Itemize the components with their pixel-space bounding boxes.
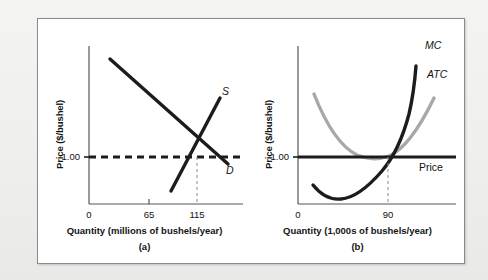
panel-a-x-tick-label-65: 65: [137, 209, 161, 220]
panel-b-x-tick-label-90: 90: [375, 209, 401, 220]
panel-b-caption: (b): [251, 241, 464, 252]
panel-a-caption: (a): [38, 241, 251, 252]
panel-b-price-label: Price: [419, 161, 443, 173]
panel-a: Price ($/bushel) 1.00 0 65 115 S D Quant…: [38, 19, 251, 263]
panel-b-atc-curve: [314, 94, 434, 159]
panel-a-x-axis-title: Quantity (millions of bushels/year): [38, 225, 251, 236]
panel-b-atc-label: ATC: [427, 68, 447, 80]
panel-b-y-tick-label-1.00: 1.00: [253, 151, 289, 162]
panel-a-x-tick-label-115: 115: [183, 209, 211, 220]
panel-a-x-tick-label-0: 0: [79, 209, 99, 220]
panel-a-demand-label: D: [226, 164, 234, 176]
panel-b-x-axis-title: Quantity (1,000s of bushels/year): [251, 225, 464, 236]
panel-a-supply-label: S: [222, 85, 229, 97]
panel-a-demand-curve: [110, 59, 228, 164]
figure-page: Price ($/bushel) 1.00 0 65 115 S D Quant…: [0, 0, 488, 280]
figure-frame: Price ($/bushel) 1.00 0 65 115 S D Quant…: [37, 18, 465, 264]
panel-a-supply-curve: [171, 98, 220, 191]
panel-a-y-tick-label-1.00: 1.00: [44, 151, 80, 162]
panel-b-x-tick-label-0: 0: [288, 209, 308, 220]
panel-b-mc-curve: [313, 66, 416, 199]
panel-b: Price ($/bushel) 1.00 0 90 MC ATC Price …: [251, 19, 464, 263]
panel-b-mc-label: MC: [425, 39, 441, 51]
